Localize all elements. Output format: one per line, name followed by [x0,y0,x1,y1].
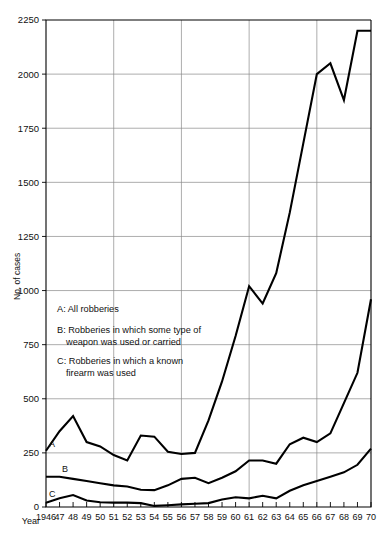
x-tick-label: 60 [231,512,241,522]
series-line-a [46,31,371,461]
x-tick-label: 67 [325,512,335,522]
series-inline-label-a: A [49,439,55,449]
legend-item-b-line2: weapon was used or carried [65,337,181,347]
x-tick-label: 69 [352,512,362,522]
x-tick-label: 48 [68,512,78,522]
x-axis-title: Year [22,516,40,526]
y-tick-label: 750 [23,339,39,350]
y-axis-title-group: No. of cases [12,253,22,300]
series-line-c [46,449,371,506]
x-tick-label: 51 [109,512,119,522]
x-tick-label: 50 [95,512,105,522]
x-tick-label: 61 [244,512,254,522]
x-tick-label: 47 [55,512,65,522]
y-axis-title: No. of cases [12,253,22,300]
x-tick-label: 54 [149,512,159,522]
y-tick-label: 1750 [18,123,39,134]
series-inline-label-b: B [62,464,68,474]
x-tick-label: 49 [82,512,92,522]
legend-item-b-line1: B: Robberies in which some type of [57,325,201,335]
legend-item-c-line2: firearm was used [66,368,136,378]
legend: A: All robberies B: Robberies in which s… [57,304,201,378]
y-tick-label: 500 [23,393,39,404]
x-tick-label: 52 [122,512,132,522]
x-tick-label: 56 [176,512,186,522]
plot-frame [46,20,371,507]
y-tick-label: 0 [34,501,39,512]
y-tick-label: 2000 [18,69,39,80]
series-inline-label-c: C [49,489,56,499]
robberies-line-chart: 0250500750100012501500175020002250 19464… [0,0,390,540]
x-tick-label: 63 [271,512,281,522]
chart-canvas: 0250500750100012501500175020002250 19464… [0,0,390,540]
x-tick-label: 53 [136,512,146,522]
y-tick-label: 2250 [18,14,39,25]
x-tick-label: 66 [312,512,322,522]
gridlines [46,20,371,507]
x-tick-label: 70 [366,512,376,522]
x-tick-label: 55 [163,512,173,522]
x-tick-label: 58 [203,512,213,522]
x-tick-label: 59 [217,512,227,522]
series-inline-labels: ABC [49,439,68,499]
x-tick-label: 65 [298,512,308,522]
axis-ticks [42,20,371,507]
x-tick-label: 68 [339,512,349,522]
data-series [46,31,371,506]
x-tick-label: 57 [190,512,200,522]
axis-frame [46,20,371,507]
legend-item-a-line1: A: All robberies [57,304,119,314]
x-axis-tick-labels: 1946474849505152535455565758596061626364… [36,512,376,522]
y-tick-label: 1500 [18,177,39,188]
x-tick-label: 64 [285,512,295,522]
x-tick-label: 62 [258,512,268,522]
y-tick-label: 1250 [18,231,39,242]
legend-item-c-line1: C: Robberies in which a known [57,356,183,366]
y-tick-label: 250 [23,447,39,458]
